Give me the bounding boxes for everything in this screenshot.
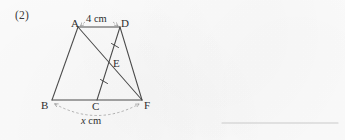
segment-AB [52, 27, 78, 100]
measurement-label-ad: 4 cm [86, 14, 107, 25]
measurement-variable-x: x [81, 115, 86, 126]
vertex-label-e: E [113, 58, 120, 69]
segment-AF [78, 27, 142, 100]
vertex-label-b: B [41, 100, 48, 111]
vertex-label-c: C [92, 101, 99, 112]
vertex-label-d: D [121, 18, 129, 29]
dimension-leader-D [113, 22, 118, 26]
measurement-label-bf: x cm [81, 116, 101, 127]
measurement-unit-cm: cm [88, 115, 101, 126]
tick-mark-CE [101, 80, 108, 84]
worksheet-page: (2) [0, 0, 345, 140]
segment-DF [120, 27, 142, 100]
vertex-label-f: F [144, 100, 150, 111]
geometry-figure [0, 0, 345, 140]
vertex-label-a: A [71, 18, 79, 29]
dimension-leader-A [81, 22, 86, 26]
